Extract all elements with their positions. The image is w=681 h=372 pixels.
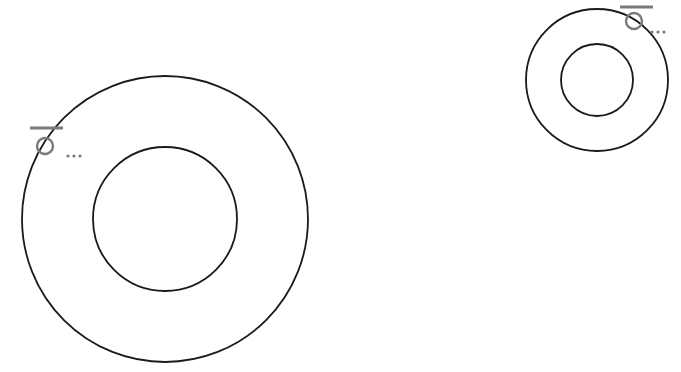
large-inner-circle [93, 147, 237, 291]
small-inner-circle [561, 44, 633, 116]
small-outer-circle [526, 9, 668, 151]
diagram-canvas [0, 0, 681, 372]
small-ring [526, 7, 668, 151]
large-outer-circle [22, 76, 308, 362]
large-ring [22, 76, 308, 362]
diameter-symbol-icon [620, 7, 666, 34]
